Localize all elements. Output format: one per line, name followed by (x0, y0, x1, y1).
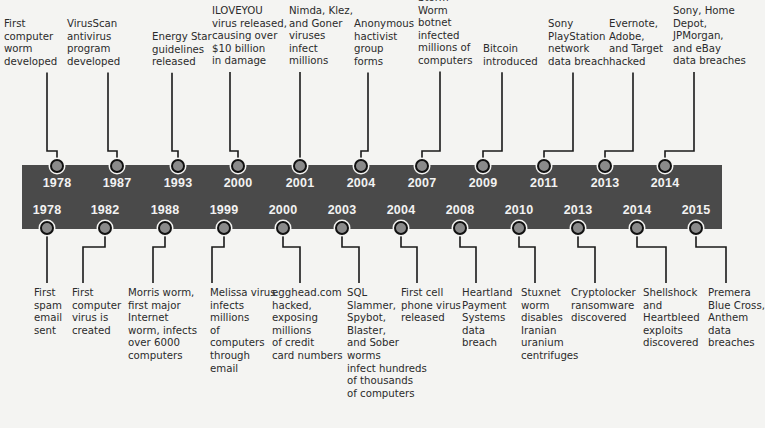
event-description: Energy Star guidelines released (152, 31, 212, 69)
connector-line (637, 228, 666, 283)
event-description: Cryptolocker ransomware discovered (571, 287, 636, 325)
event-year: 2009 (469, 176, 498, 190)
timeline-marker-dot (453, 221, 467, 235)
connector-line (108, 72, 117, 166)
event-year: 2007 (408, 176, 437, 190)
timeline-marker-dot (50, 159, 64, 173)
timeline-marker-dot (217, 221, 231, 235)
event-year: 1988 (151, 203, 180, 217)
event-year: 2011 (530, 176, 558, 190)
event-description: Anonymous hactivist group forms (354, 18, 414, 68)
event-year: 2008 (446, 203, 475, 217)
timeline-marker-dot (354, 159, 368, 173)
event-description: egghead.com hacked, exposing millions of… (272, 287, 343, 363)
connector-line (47, 72, 57, 166)
event-year: 1993 (164, 176, 193, 190)
event-year: 2003 (328, 203, 357, 217)
event-description: Heartland Payment Systems data breach (462, 287, 512, 350)
event-description: Sony, Home Depot, JPMorgan, and eBay dat… (673, 5, 746, 68)
event-year: 2004 (347, 176, 376, 190)
timeline-marker-dot (571, 221, 585, 235)
timeline-marker-dot (658, 159, 672, 173)
event-description: Bitcoin introduced (483, 43, 538, 68)
connector-line (361, 72, 368, 166)
timeline-marker-dot (415, 159, 429, 173)
event-description: Premera Blue Cross, Anthem data breaches (708, 287, 765, 350)
timeline-marker-dot (689, 221, 703, 235)
connector-line (460, 228, 476, 283)
timeline-marker-dot (537, 159, 551, 173)
connector-line (153, 228, 165, 283)
connector-line (483, 72, 502, 166)
timeline-marker-dot (630, 221, 644, 235)
event-description: Nimda, Klez, and Goner viruses infect mi… (289, 5, 353, 68)
event-description: Storm Worm botnet infected millions of c… (418, 0, 472, 68)
connector-line (422, 72, 440, 166)
event-description: Morris worm, first major Internet worm, … (128, 287, 197, 363)
event-description: VirusScan antivirus program developed (67, 18, 120, 68)
timeline-marker-dot (231, 159, 245, 173)
timeline-marker-dot (476, 159, 490, 173)
event-description: Stuxnet worm disables Iranian uranium ce… (521, 287, 578, 363)
event-year: 2010 (505, 203, 534, 217)
connector-line (401, 228, 417, 283)
timeline-marker-dot (110, 159, 124, 173)
timeline-marker-dot (293, 159, 307, 173)
connector-line (83, 228, 105, 283)
timeline-marker-dot (171, 159, 185, 173)
timeline-marker-dot (40, 221, 54, 235)
event-year: 1982 (91, 203, 120, 217)
event-description: First cell phone virus released (401, 287, 461, 325)
event-year: 1978 (43, 176, 72, 190)
event-year: 2013 (591, 176, 620, 190)
event-year: 2001 (286, 176, 315, 190)
event-year: 2000 (224, 176, 253, 190)
event-description: First computer virus is created (72, 287, 121, 337)
timeline-marker-dot (98, 221, 112, 235)
event-year: 2013 (564, 203, 593, 217)
timeline-marker-dot (276, 221, 290, 235)
event-description: First spam email sent (34, 287, 62, 337)
connector-line (696, 228, 726, 283)
timeline-marker-dot (394, 221, 408, 235)
connector-line (578, 228, 595, 283)
event-year: 1987 (103, 176, 132, 190)
timeline-marker-dot (598, 159, 612, 173)
connector-line (283, 228, 300, 283)
timeline-marker-dot (158, 221, 172, 235)
event-year: 2000 (269, 203, 298, 217)
event-description: First computer worm developed (4, 18, 57, 68)
event-year: 2015 (682, 203, 711, 217)
connector-line (230, 72, 238, 166)
event-year: 2004 (387, 203, 416, 217)
event-description: ILOVEYOU virus released, causing over $1… (212, 5, 287, 68)
event-year: 2014 (651, 176, 680, 190)
event-description: Sony PlayStation network data breach (548, 18, 609, 68)
event-description: Evernote, Adobe, and Target hacked (609, 18, 663, 68)
timeline-band (22, 165, 722, 229)
event-year: 1999 (210, 203, 239, 217)
event-year: 2014 (623, 203, 652, 217)
timeline-marker-dot (335, 221, 349, 235)
connector-line (212, 228, 224, 283)
connector-line (519, 228, 535, 283)
connector-line (172, 73, 178, 166)
event-description: Shellshock and Heartbleed exploits disco… (643, 287, 700, 350)
connector-line (544, 72, 573, 166)
connector-line (605, 72, 633, 166)
connector-line (342, 228, 359, 283)
event-description: Melissa virus infects millions of comput… (210, 287, 276, 375)
connector-line (665, 72, 694, 166)
event-year: 1978 (33, 203, 62, 217)
timeline-marker-dot (512, 221, 526, 235)
